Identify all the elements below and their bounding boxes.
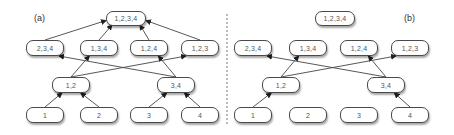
panel-label: (a)	[34, 13, 45, 23]
node-124: 1,2,4	[340, 40, 378, 56]
edge-4-to-34	[184, 93, 200, 107]
node-123: 1,2,3	[391, 40, 429, 56]
edge-34-to-234	[59, 56, 176, 77]
node-134: 1,3,4	[289, 40, 327, 56]
node-34: 3,4	[367, 77, 405, 93]
node-4: 4	[181, 107, 219, 123]
edge-234-to-1234	[45, 21, 106, 41]
node-2: 2	[80, 107, 118, 123]
node-1: 1	[234, 107, 272, 123]
edge-123-to-1234	[146, 21, 200, 41]
node-3: 3	[340, 107, 378, 123]
panel-label: (b)	[404, 13, 415, 23]
lattice-diagram: (a)1,2,3,42,3,41,3,41,2,41,2,31,23,41234…	[0, 0, 454, 135]
edge-12-to-123	[281, 56, 396, 77]
edge-134-to-1234	[99, 25, 112, 40]
node-12: 1,2	[52, 77, 90, 93]
edge-1-to-12	[253, 93, 271, 107]
node-123: 1,2,3	[181, 40, 219, 56]
node-4: 4	[391, 107, 429, 123]
edge-2-to-12	[81, 93, 99, 107]
node-12: 1,2	[262, 77, 300, 93]
node-1234: 1,2,3,4	[315, 11, 355, 26]
edge-1-to-12	[45, 93, 62, 107]
node-1234: 1,2,3,4	[106, 11, 146, 26]
edge-3-to-34	[149, 93, 167, 107]
node-234: 2,3,4	[26, 40, 64, 56]
edges-layer	[0, 0, 454, 135]
node-2: 2	[289, 107, 327, 123]
edge-4-to-34	[394, 93, 410, 107]
edge-12-to-123	[71, 56, 186, 77]
edge-124-to-1234	[140, 25, 149, 40]
node-1: 1	[26, 107, 64, 123]
node-234: 2,3,4	[234, 40, 272, 56]
node-3: 3	[130, 107, 168, 123]
node-34: 3,4	[157, 77, 195, 93]
node-134: 1,3,4	[80, 40, 118, 56]
node-124: 1,2,4	[130, 40, 168, 56]
edge-34-to-234	[267, 56, 386, 77]
